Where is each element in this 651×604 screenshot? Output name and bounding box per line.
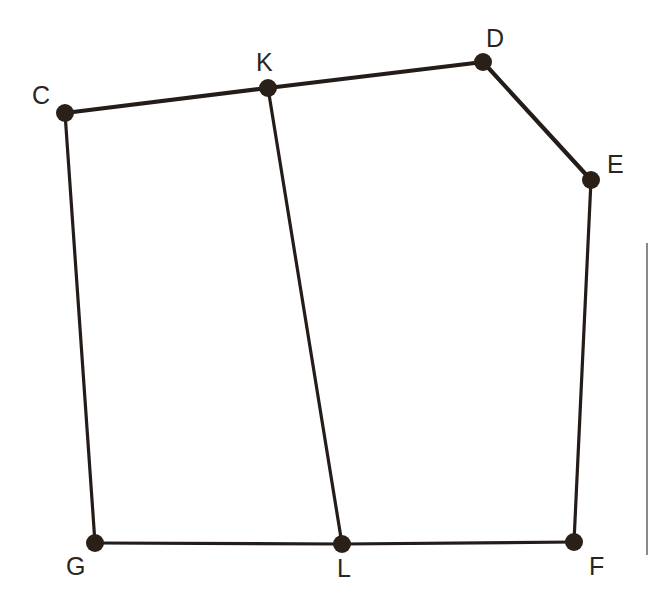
vertex-label-e: E <box>607 152 624 177</box>
vertex-label-k: K <box>256 50 273 75</box>
edge-d-e <box>483 62 591 180</box>
edge-l-g <box>95 543 342 544</box>
vertex-label-d: D <box>486 26 504 51</box>
edges-group <box>65 62 591 544</box>
edge-c-k <box>65 88 268 113</box>
edge-k-l <box>268 88 342 544</box>
vertex-k[interactable] <box>259 79 277 97</box>
edge-g-c <box>65 113 95 543</box>
vertex-g[interactable] <box>86 534 104 552</box>
figure-svg <box>0 0 651 604</box>
vertex-label-c: C <box>32 83 50 108</box>
edge-f-l <box>342 542 574 544</box>
vertex-l[interactable] <box>333 535 351 553</box>
vertex-d[interactable] <box>474 53 492 71</box>
vertex-c[interactable] <box>56 104 74 122</box>
vertex-label-f: F <box>589 554 604 579</box>
vertex-e[interactable] <box>582 171 600 189</box>
vertex-label-g: G <box>66 554 85 579</box>
edge-k-d <box>268 62 483 88</box>
edge-e-f <box>574 180 591 542</box>
page-edge-scan-line <box>646 243 648 555</box>
vertex-f[interactable] <box>565 533 583 551</box>
vertex-label-l: L <box>337 556 351 581</box>
diagram-canvas: CKDEFLG <box>0 0 651 604</box>
nodes-group <box>56 53 600 553</box>
